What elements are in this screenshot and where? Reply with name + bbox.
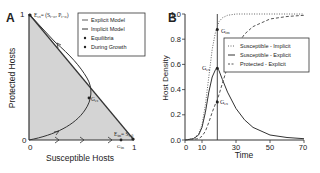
x-tick-label: 10 <box>198 143 206 152</box>
legend-protected-explicit: Protected - Explicit <box>240 61 286 67</box>
panel-b: B 0.0 0.2 0.4 0.6 0.8 1.0 0 10 30 5 <box>161 10 309 161</box>
y-tick-label: 1.0 <box>171 10 181 19</box>
growth-point-gex-s <box>216 67 219 70</box>
y-tick-label: 0.4 <box>171 85 181 94</box>
panel-b-legend: Susceptible - Implicit Susceptible - Exp… <box>224 38 309 72</box>
growth-point <box>88 97 91 100</box>
y-tick-label: 0.8 <box>171 35 181 44</box>
y-tick-0: 0 <box>22 136 27 145</box>
panel-a-letter: A <box>6 11 15 25</box>
annotation-e-ex: Eex= (St=∞, Pt=∞) <box>34 12 69 19</box>
annotation-g-im: Gim <box>117 144 125 150</box>
y-tick-label: 0.6 <box>171 60 181 69</box>
panel-a-legend: Explicit Model Implicit Model Equilibria… <box>78 13 145 56</box>
protected-explicit-line <box>185 15 304 140</box>
legend-equilibria: Equilibria <box>91 35 115 41</box>
x-tick-1: 1 <box>132 143 137 152</box>
figure: A 1 0 0 1 Susceptible Hosts Protected Ho… <box>0 0 320 173</box>
x-tick-label: 0 <box>184 143 188 152</box>
legend-susceptible-implicit: Susceptible - Implicit <box>240 43 291 49</box>
x-axis-label: Susceptible Hosts <box>46 153 114 163</box>
legend-dot-equilibria <box>84 37 86 39</box>
legend-explicit-model: Explicit Model <box>91 17 125 23</box>
x-tick-label: 70 <box>299 143 307 152</box>
annotation-g-im: Gim <box>221 28 230 35</box>
panel-a: A 1 0 0 1 Susceptible Hosts Protected Ho… <box>6 10 145 163</box>
annotation-g-ex-susceptible: Gex <box>202 65 210 72</box>
y-tick-1: 1 <box>20 10 25 19</box>
susceptible-explicit-line <box>185 68 304 140</box>
y-tick-label: 0.2 <box>171 110 181 119</box>
equilibrium-point <box>28 13 31 16</box>
figure-svg: A 1 0 0 1 Susceptible Hosts Protected Ho… <box>0 0 320 173</box>
annotation-e-im: Eim= St=0 <box>114 131 134 138</box>
legend-during-growth: During Growth <box>91 44 126 50</box>
growth-point <box>120 139 123 142</box>
legend-implicit-model: Implicit Model <box>91 26 125 32</box>
legend-susceptible-explicit: Susceptible - Explicit <box>240 52 291 58</box>
y-tick-label: 0.0 <box>171 136 181 145</box>
growth-point-gex-p <box>216 101 219 104</box>
y-axis-label: Protected Hosts <box>7 48 17 108</box>
susceptible-implicit-line <box>185 14 304 140</box>
y-axis-label: Host Density <box>161 55 170 100</box>
growth-point-gim <box>216 28 219 31</box>
x-axis-label: Time <box>235 150 254 160</box>
legend-dot-growth <box>84 46 86 48</box>
x-tick-0: 0 <box>28 143 33 152</box>
x-tick-label: 50 <box>266 143 274 152</box>
annotation-g-ex-protected: Gex <box>220 99 228 106</box>
